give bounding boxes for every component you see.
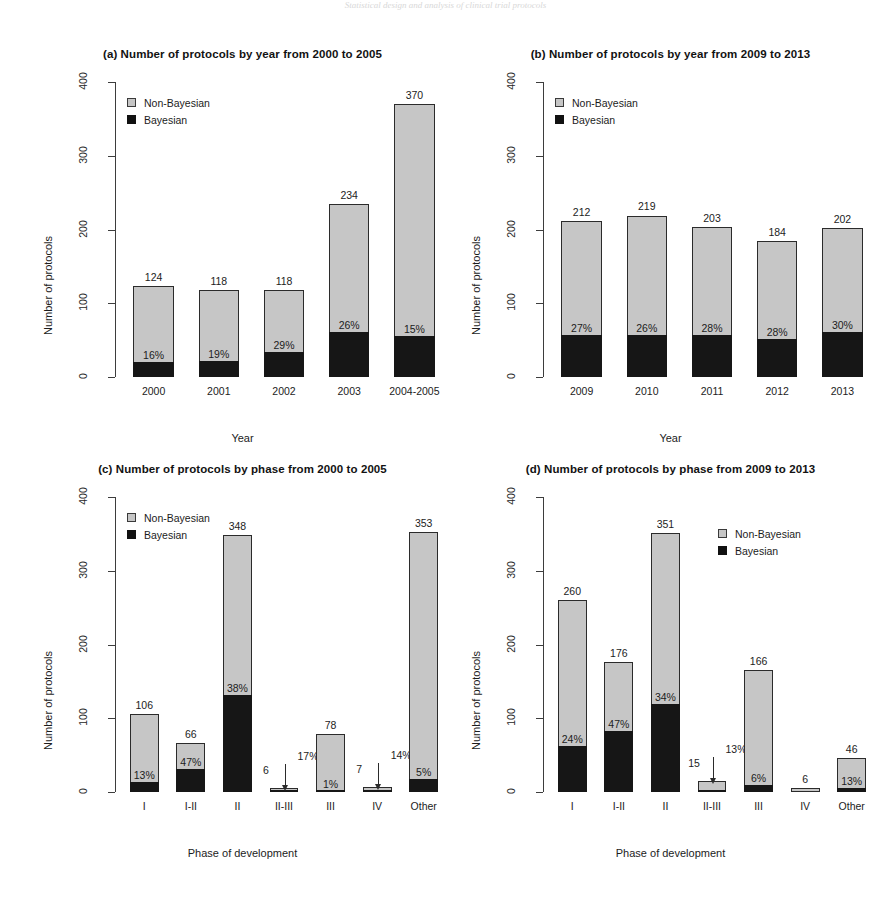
legend-swatch-non-bayesian-icon bbox=[127, 513, 136, 522]
segment-bayesian bbox=[757, 339, 797, 377]
y-tick bbox=[536, 792, 543, 793]
y-tick bbox=[108, 156, 115, 157]
panel-title-b: (b) Number of protocols by year from 200… bbox=[448, 48, 891, 60]
segment-bayesian bbox=[329, 332, 369, 377]
legend-item-bayesian: Bayesian bbox=[127, 111, 210, 128]
y-tick bbox=[536, 645, 543, 646]
legend-swatch-bayesian-icon bbox=[127, 530, 136, 539]
bar-d-I bbox=[558, 600, 587, 792]
plot-area-a: 010020030040012416%200011819%200111829%2… bbox=[75, 82, 447, 382]
y-tick-label: 100 bbox=[77, 282, 89, 322]
y-tick-label: 400 bbox=[77, 476, 89, 516]
bar-a-2004-2005 bbox=[394, 104, 434, 377]
bar-a-2000 bbox=[133, 286, 173, 377]
plot-area-c: 010020030040010613%I6647%I-II34838%II617… bbox=[75, 497, 447, 797]
legend-item-non-bayesian: Non-Bayesian bbox=[718, 525, 801, 542]
callout-number: 6 bbox=[246, 764, 286, 776]
bar-total-label: 202 bbox=[797, 213, 887, 225]
bar-b-2010 bbox=[627, 216, 667, 378]
y-tick bbox=[536, 230, 543, 231]
bar-c-Other bbox=[409, 532, 438, 792]
bar-total-label: 166 bbox=[714, 655, 804, 667]
y-tick-label: 0 bbox=[505, 356, 517, 396]
y-tick bbox=[108, 377, 115, 378]
bar-total-label: 219 bbox=[602, 200, 692, 212]
x-axis-label-c: Phase of development bbox=[20, 847, 465, 859]
y-tick bbox=[108, 497, 115, 498]
segment-bayesian bbox=[627, 335, 667, 377]
segment-bayesian bbox=[698, 790, 727, 793]
panel-title-a: (a) Number of protocols by year from 200… bbox=[20, 48, 465, 60]
segment-bayesian bbox=[561, 335, 601, 377]
y-tick bbox=[536, 82, 543, 83]
y-tick-label: 200 bbox=[77, 624, 89, 664]
y-tick-label: 400 bbox=[505, 476, 517, 516]
legend-label-bayesian: Bayesian bbox=[144, 529, 187, 541]
x-tick-label: 2013 bbox=[792, 385, 891, 397]
bar-total-label: 46 bbox=[807, 743, 891, 755]
y-tick-label: 200 bbox=[505, 624, 517, 664]
legend-label-non-bayesian: Non-Bayesian bbox=[735, 528, 801, 540]
bar-a-2002 bbox=[264, 290, 304, 377]
legend-label-bayesian: Bayesian bbox=[572, 114, 615, 126]
segment-bayesian bbox=[264, 352, 304, 377]
y-tick-label: 200 bbox=[505, 209, 517, 249]
segment-bayesian bbox=[223, 695, 252, 792]
segment-bayesian bbox=[199, 361, 239, 377]
bar-total-label: 260 bbox=[527, 585, 617, 597]
bar-b-2013 bbox=[822, 228, 862, 377]
legend-swatch-non-bayesian-icon bbox=[718, 529, 727, 538]
y-tick-label: 300 bbox=[77, 135, 89, 175]
y-tick-label: 400 bbox=[505, 61, 517, 101]
segment-bayesian bbox=[130, 782, 159, 792]
bar-percent-label: 13% bbox=[807, 775, 891, 787]
y-tick bbox=[108, 82, 115, 83]
panel-d: (d) Number of protocols by phase from 20… bbox=[448, 455, 891, 912]
bar-total-label: 184 bbox=[732, 226, 822, 238]
bar-percent-label: 38% bbox=[192, 682, 282, 694]
y-axis-label-c: Number of protocols bbox=[42, 651, 54, 750]
segment-bayesian bbox=[651, 704, 680, 792]
segment-non-bayesian bbox=[409, 532, 438, 792]
legend-item-bayesian: Bayesian bbox=[555, 111, 638, 128]
x-tick-label: Other bbox=[802, 800, 891, 812]
y-tick bbox=[108, 645, 115, 646]
y-axis-line bbox=[115, 82, 116, 377]
y-tick bbox=[536, 377, 543, 378]
legend-d: Non-BayesianBayesian bbox=[718, 525, 801, 559]
y-tick bbox=[536, 156, 543, 157]
bar-d-IV bbox=[791, 788, 820, 792]
y-tick-label: 400 bbox=[77, 61, 89, 101]
legend-b: Non-BayesianBayesian bbox=[555, 94, 638, 128]
bar-d-II bbox=[651, 533, 680, 792]
bars-group: 26024%I17647%I-II35134%II1513%II-III1666… bbox=[549, 497, 875, 792]
bar-total-label: 370 bbox=[369, 89, 459, 101]
legend-swatch-non-bayesian-icon bbox=[555, 98, 564, 107]
figure-four-panel-bar-charts: Statistical design and analysis of clini… bbox=[0, 0, 891, 914]
segment-bayesian bbox=[176, 769, 205, 792]
segment-bayesian bbox=[363, 790, 392, 793]
segment-bayesian bbox=[133, 362, 173, 377]
legend-swatch-bayesian-icon bbox=[718, 546, 727, 555]
bar-b-2012 bbox=[757, 241, 797, 377]
segment-bayesian bbox=[822, 332, 862, 377]
segment-bayesian bbox=[744, 785, 773, 792]
y-tick-label: 100 bbox=[77, 697, 89, 737]
bar-a-2003 bbox=[329, 204, 369, 377]
legend-swatch-non-bayesian-icon bbox=[127, 98, 136, 107]
panel-c: (c) Number of protocols by phase from 20… bbox=[20, 455, 465, 912]
bar-percent-label: 30% bbox=[797, 319, 887, 331]
legend-label-bayesian: Bayesian bbox=[735, 545, 778, 557]
y-axis-line bbox=[115, 497, 116, 792]
callout-number: 7 bbox=[339, 763, 379, 775]
y-tick bbox=[536, 497, 543, 498]
legend-swatch-bayesian-icon bbox=[127, 115, 136, 124]
y-tick bbox=[108, 792, 115, 793]
segment-bayesian bbox=[692, 335, 732, 377]
bar-total-label: 203 bbox=[667, 212, 757, 224]
panel-a: (a) Number of protocols by year from 200… bbox=[20, 40, 465, 497]
panel-b: (b) Number of protocols by year from 200… bbox=[448, 40, 891, 497]
legend-item-non-bayesian: Non-Bayesian bbox=[127, 94, 210, 111]
bar-total-label: 351 bbox=[620, 518, 710, 530]
y-axis-label-b: Number of protocols bbox=[470, 236, 482, 335]
